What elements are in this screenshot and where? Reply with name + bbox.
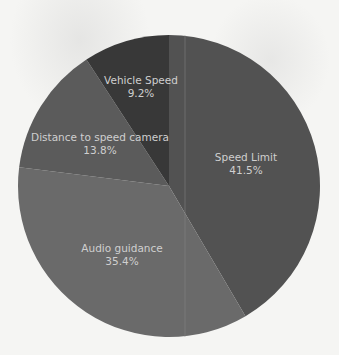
slice-label-distance-to-speed-camera: Distance to speed camera <box>31 131 169 143</box>
pie-chart: Speed Limit 41.5% Audio guidance 35.4% D… <box>0 0 339 355</box>
slice-label-audio-guidance: Audio guidance <box>81 242 162 254</box>
slice-value-vehicle-speed: 9.2% <box>128 87 155 99</box>
slice-value-speed-limit: 41.5% <box>229 164 262 176</box>
chart-container: Speed Limit 41.5% Audio guidance 35.4% D… <box>0 0 339 355</box>
slice-label-speed-limit: Speed Limit <box>215 151 277 163</box>
slice-value-audio-guidance: 35.4% <box>105 255 138 267</box>
slice-label-vehicle-speed: Vehicle Speed <box>104 74 178 86</box>
slice-value-distance-to-speed-camera: 13.8% <box>83 144 116 156</box>
